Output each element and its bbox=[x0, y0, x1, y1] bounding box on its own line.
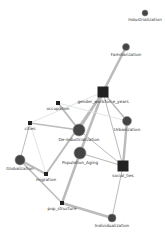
node-gender-workforce-years[interactable] bbox=[98, 87, 109, 98]
node-migration[interactable] bbox=[44, 172, 48, 176]
node-label: Industrialization bbox=[128, 17, 162, 22]
node-label: Familiarization bbox=[111, 52, 141, 57]
node-label: Individualization bbox=[95, 223, 129, 228]
node-pop-structure[interactable] bbox=[60, 201, 64, 205]
node-de-industrialization[interactable] bbox=[73, 124, 85, 136]
node-occupation[interactable] bbox=[56, 101, 60, 105]
node-label: Globalization bbox=[6, 166, 33, 171]
node-label: social_ties bbox=[112, 173, 134, 178]
node-globalization[interactable] bbox=[15, 155, 25, 165]
network-graph bbox=[0, 0, 165, 241]
node-cities[interactable] bbox=[28, 121, 32, 125]
node-social-ties[interactable] bbox=[118, 161, 129, 172]
node-label: De-industrialization bbox=[59, 137, 100, 142]
edge-cities-De-industrialization bbox=[30, 123, 79, 130]
node-individualization[interactable] bbox=[108, 214, 116, 222]
node-label: occupation bbox=[46, 106, 69, 111]
node-label: gender_workforce_years bbox=[77, 99, 128, 104]
node-familiarization[interactable] bbox=[123, 44, 130, 51]
node-label: Population_Aging bbox=[62, 160, 98, 165]
nodes-layer bbox=[15, 10, 148, 222]
node-population-aging[interactable] bbox=[74, 147, 86, 159]
node-label: Urbanization bbox=[114, 127, 141, 132]
node-label: migration bbox=[36, 177, 56, 182]
node-label: cities bbox=[24, 126, 35, 131]
node-industrialization[interactable] bbox=[142, 10, 148, 16]
node-label: pop_structure bbox=[48, 206, 77, 211]
node-urbanization[interactable] bbox=[123, 117, 132, 126]
